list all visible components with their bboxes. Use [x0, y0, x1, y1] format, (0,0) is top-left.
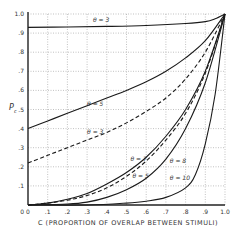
y-tick-label: .4	[18, 125, 24, 132]
x-tick-label: .4	[104, 208, 110, 215]
x-tick-label: .1	[45, 208, 51, 215]
x-tick-label: .8	[183, 208, 189, 215]
y-tick-label: .5	[18, 106, 24, 113]
x-tick-label: .3	[84, 208, 90, 215]
curve-label: θ = 5	[132, 172, 149, 179]
x-tick-label: .9	[202, 208, 208, 215]
curve-labels: θ = 3θ = 5θ = 3θ = 7θ = 5θ = 8θ = 10	[87, 16, 190, 182]
curve-label: θ = 3	[93, 16, 110, 23]
curve-solid-3	[28, 14, 225, 27]
y-tick-label: .8	[18, 48, 24, 55]
x-tick-label: 0	[26, 208, 30, 215]
y-tick-label: .1	[18, 182, 24, 189]
y-tick-label: .7	[18, 67, 24, 74]
curve-label: θ = 5	[87, 100, 104, 107]
curve-label: θ = 7	[130, 155, 147, 162]
y-tick-label: .9	[18, 29, 24, 36]
x-tick-label: 1.0	[220, 208, 230, 215]
curve-label: θ = 8	[170, 157, 187, 164]
y-axis-label: P c	[9, 103, 17, 114]
svg-text:c: c	[14, 108, 17, 114]
curve-label: θ = 3	[87, 128, 104, 135]
curve-dashed-3	[28, 14, 225, 163]
y-tick-label: .3	[18, 144, 24, 151]
grid	[28, 14, 225, 205]
chart: 0.1.2.3.4.5.6.7.8.91.0.1.2.3.4.5.6.7.8.9…	[0, 0, 244, 231]
y-tick-label: .2	[18, 163, 24, 170]
x-axis-label: C (PROPORTION OF OVERLAP BETWEEN STIMULI…	[38, 219, 218, 227]
x-tick-label: .7	[163, 208, 169, 215]
y-tick-label: .6	[18, 86, 24, 93]
y-tick-label: 0	[20, 208, 24, 215]
y-tick-label: 1.0	[14, 10, 24, 17]
curve-label: θ = 10	[170, 174, 190, 181]
x-tick-label: .5	[124, 208, 130, 215]
axes: 0.1.2.3.4.5.6.7.8.91.0.1.2.3.4.5.6.7.8.9…	[14, 10, 229, 215]
x-tick-label: .6	[143, 208, 149, 215]
x-tick-label: .2	[65, 208, 71, 215]
